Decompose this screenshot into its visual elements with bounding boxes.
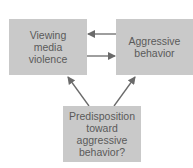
node-label-line: media <box>29 41 68 53</box>
arrow-predisposition-to-aggressive <box>114 77 135 106</box>
node-label-line: Predisposition <box>69 110 135 122</box>
node-aggressive-behavior: Aggressive behavior <box>116 19 193 75</box>
node-predisposition: Predisposition toward aggressive behavio… <box>63 106 141 162</box>
node-label-line: toward <box>69 122 135 134</box>
node-label-line: behavior? <box>69 146 135 158</box>
node-label-line: aggressive <box>69 134 135 146</box>
node-label-line: violence <box>29 53 68 65</box>
node-label-line: behavior <box>129 47 181 59</box>
node-label-line: Viewing <box>29 29 68 41</box>
arrow-predisposition-to-viewing <box>68 77 89 106</box>
node-viewing-media-violence: Viewing media violence <box>9 19 87 75</box>
node-label-line: Aggressive <box>129 35 181 47</box>
